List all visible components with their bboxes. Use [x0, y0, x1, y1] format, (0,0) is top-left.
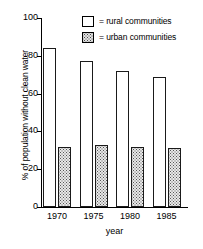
bar-rural-1970 [43, 48, 56, 207]
bar-rural-1980 [116, 71, 129, 207]
bar-urban-1980 [131, 147, 144, 207]
x-tick-label: 1980 [110, 211, 150, 221]
y-tick-label: 100 [23, 12, 38, 23]
bar-urban-1975 [95, 145, 108, 207]
bar-group [116, 18, 144, 207]
bar-group [80, 18, 108, 207]
y-tick-label: 40 [28, 125, 38, 136]
bar-chart: % of population without clean water = ru… [0, 0, 203, 249]
bar-urban-1985 [168, 148, 181, 207]
bar-group [153, 18, 181, 207]
bar-group [43, 18, 71, 207]
plot-area: 020406080100 1970197519801985 [41, 18, 188, 208]
y-tick-label: 80 [28, 50, 38, 61]
bar-urban-1970 [58, 147, 71, 207]
y-axis-line [41, 18, 42, 208]
y-tick-label: 60 [28, 88, 38, 99]
bar-rural-1985 [153, 77, 166, 207]
x-tick-label: 1975 [74, 211, 114, 221]
x-axis-line [41, 207, 188, 208]
x-tick-label: 1970 [37, 211, 77, 221]
y-axis-title: % of population without clean water [20, 15, 30, 215]
y-tick-label: 20 [28, 163, 38, 174]
x-axis-title: year [41, 226, 188, 236]
x-tick-label: 1985 [147, 211, 187, 221]
bar-rural-1975 [80, 61, 93, 207]
